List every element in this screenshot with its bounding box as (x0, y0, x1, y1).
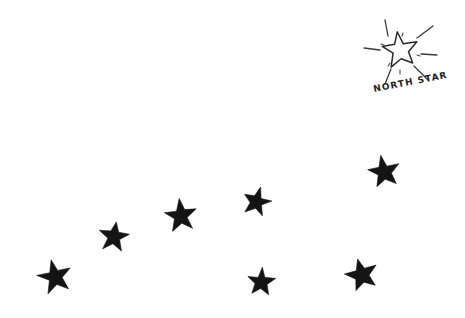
sketch-canvas: NORTH STAR (0, 0, 465, 318)
paper-background (0, 0, 465, 318)
constellation-drawing: NORTH STAR (0, 0, 465, 318)
